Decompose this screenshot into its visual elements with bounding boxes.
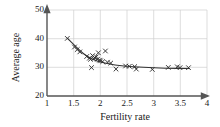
axes <box>44 6 208 99</box>
x-tick-label-4: 4 <box>199 99 215 108</box>
y-axis-title: Average age <box>10 26 21 90</box>
x-tick-label-2.5: 2.5 <box>119 99 135 108</box>
x-tick-label-3: 3 <box>146 99 162 108</box>
x-tick-label-2: 2 <box>92 99 108 108</box>
fit-curve <box>67 38 190 68</box>
data-point <box>186 65 191 70</box>
y-tick-label-50: 50 <box>28 5 44 14</box>
grid-lines <box>47 10 207 96</box>
x-tick-label-1.5: 1.5 <box>66 99 82 108</box>
chart-figure: 50 40 30 20 1 1.5 2 2.5 3 3.5 4 Average … <box>0 0 220 127</box>
data-point <box>103 49 108 54</box>
x-tick-label-3.5: 3.5 <box>172 99 188 108</box>
x-tick-label-1: 1 <box>39 99 55 108</box>
y-tick-label-40: 40 <box>28 34 44 43</box>
y-tick-label-30: 30 <box>28 62 44 71</box>
y-axis-arrow-icon <box>44 6 49 13</box>
x-axis-title: Fertility rate <box>40 111 210 122</box>
